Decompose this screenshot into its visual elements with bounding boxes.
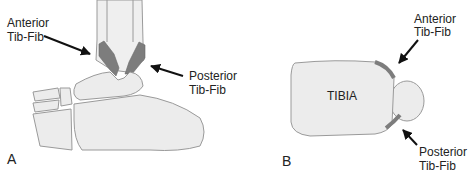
anterior-label-b-line1: Anterior (414, 12, 456, 26)
anterior-label-b-line2: Tib-Fib (414, 25, 451, 39)
calcaneus-a (74, 95, 204, 151)
posterior-arrow-a (151, 66, 183, 76)
posterior-label-a-line2: Tib-Fib (189, 83, 226, 97)
anterior-label-a-line2: Tib-Fib (7, 30, 44, 44)
tibia-label: TIBIA (327, 89, 357, 103)
midfoot-bones-a (33, 88, 72, 150)
posterior-label-a-line1: Posterior (189, 69, 237, 83)
anterior-label-a-line1: Anterior (7, 16, 49, 30)
posterior-label-b-line1: Posterior (419, 145, 467, 159)
panel-b: TIBIA Anterior Tib-Fib Posterior Tib-Fib… (282, 12, 467, 173)
fibula-cross-section (390, 81, 424, 121)
panel-a: Anterior Tib-Fib Posterior Tib-Fib A (7, 0, 237, 167)
anterior-arrow-b (399, 40, 418, 63)
anterior-arrow-a (44, 36, 90, 54)
panel-a-letter: A (7, 151, 17, 167)
ankle-syndesmosis-diagram: Anterior Tib-Fib Posterior Tib-Fib A TIB… (0, 0, 470, 177)
panel-b-letter: B (282, 153, 291, 169)
posterior-label-b-line2: Tib-Fib (419, 159, 456, 173)
posterior-arrow-b (403, 130, 417, 145)
